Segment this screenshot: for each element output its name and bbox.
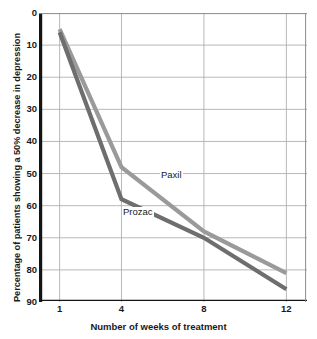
y-tick-label: 90: [17, 297, 37, 307]
x-axis-tick-labels: 14812: [39, 304, 307, 320]
plot-svg: [39, 13, 307, 302]
depression-treatment-line-chart: Percentage of patients showing a 50% dec…: [0, 0, 317, 339]
series-lines: [60, 29, 287, 289]
series-label-paxil: Paxil: [160, 170, 183, 180]
x-tick-label: 8: [201, 304, 206, 314]
y-tick-label: 50: [17, 169, 37, 179]
y-tick-label: 80: [17, 265, 37, 275]
series-line-paxil: [60, 29, 287, 273]
x-tick-label: 1: [57, 304, 62, 314]
y-tick-label: 60: [17, 201, 37, 211]
y-tick-label: 10: [17, 40, 37, 50]
vertical-gridlines: [60, 13, 287, 302]
axis-lines: [39, 13, 307, 302]
y-tick-label: 40: [17, 136, 37, 146]
plot-area: [39, 13, 307, 302]
x-tick-label: 4: [119, 304, 124, 314]
y-tick-label: 30: [17, 104, 37, 114]
horizontal-gridlines: [39, 45, 307, 270]
series-label-prozac: Prozac: [122, 207, 154, 217]
y-tick-label: 20: [17, 72, 37, 82]
x-axis-title: Number of weeks of treatment: [0, 321, 317, 332]
y-tick-label: 70: [17, 233, 37, 243]
x-tick-label: 12: [281, 304, 292, 314]
y-axis-tick-labels: 0102030405060708090: [15, 0, 37, 339]
series-line-prozac: [60, 32, 287, 289]
y-tick-label: 0: [17, 8, 37, 18]
